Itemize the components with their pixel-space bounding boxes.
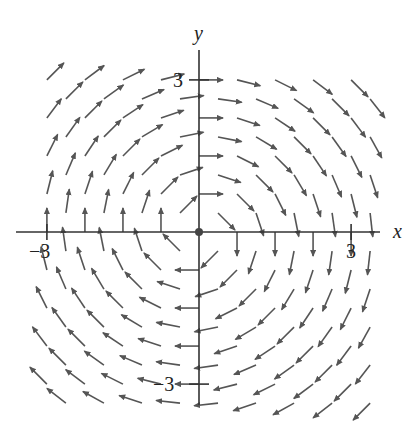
field-arrow bbox=[56, 267, 65, 289]
field-arrow bbox=[239, 289, 256, 306]
field-arrow bbox=[101, 373, 122, 384]
field-arrow bbox=[275, 156, 292, 173]
field-arrow bbox=[313, 194, 321, 217]
field-arrow bbox=[144, 253, 161, 270]
field-arrow bbox=[332, 137, 346, 157]
field-arrow bbox=[313, 403, 332, 418]
field-arrow bbox=[363, 289, 371, 312]
field-arrow bbox=[36, 287, 47, 308]
field-arrow bbox=[332, 99, 349, 116]
field-arrow bbox=[351, 156, 362, 177]
field-arrow bbox=[121, 315, 142, 327]
field-arrow bbox=[332, 213, 335, 237]
field-arrow bbox=[72, 288, 85, 308]
field-arrow bbox=[214, 346, 237, 354]
field-arrow bbox=[180, 96, 204, 99]
field-arrow bbox=[220, 270, 237, 287]
field-arrow bbox=[66, 189, 69, 213]
field-arrow bbox=[218, 213, 235, 230]
field-arrow bbox=[289, 251, 294, 275]
field-arrow bbox=[47, 171, 53, 194]
field-arrow bbox=[180, 196, 197, 213]
field-arrow bbox=[340, 308, 351, 329]
field-arrow bbox=[156, 400, 180, 403]
field-arrow bbox=[294, 175, 306, 196]
field-arrow bbox=[66, 82, 83, 99]
field-arrow bbox=[104, 154, 116, 175]
field-arrow bbox=[85, 171, 93, 194]
field-arrow bbox=[156, 322, 180, 327]
field-arrow bbox=[63, 227, 66, 251]
field-arrow bbox=[305, 270, 313, 293]
field-arrow bbox=[33, 327, 47, 346]
field-arrow bbox=[318, 327, 332, 347]
field-arrow bbox=[52, 308, 66, 328]
field-arrow bbox=[300, 308, 313, 328]
field-arrow bbox=[83, 391, 104, 403]
field-arrow bbox=[237, 80, 260, 86]
field-arrow bbox=[106, 291, 123, 308]
y-tick-label: 3 bbox=[173, 69, 183, 91]
field-arrow bbox=[313, 80, 332, 94]
field-arrow bbox=[258, 308, 275, 325]
field-arrow bbox=[123, 139, 140, 156]
field-arrow bbox=[329, 251, 332, 275]
field-arrow bbox=[85, 101, 102, 118]
field-arrow bbox=[49, 348, 66, 365]
field-arrow bbox=[30, 367, 47, 384]
field-arrow bbox=[337, 346, 351, 365]
field-arrow bbox=[256, 137, 277, 149]
field-arrow bbox=[275, 80, 296, 91]
field-arrow bbox=[296, 346, 313, 363]
field-arrow bbox=[104, 189, 109, 213]
field-arrow bbox=[255, 346, 275, 359]
field-arrow bbox=[142, 125, 163, 137]
axes: −333−3 x y bbox=[16, 22, 402, 405]
field-arrow bbox=[138, 338, 161, 346]
field-arrow bbox=[99, 227, 104, 251]
field-arrow bbox=[156, 362, 180, 365]
field-arrow bbox=[315, 365, 332, 382]
field-arrow bbox=[66, 370, 85, 384]
field-arrow bbox=[85, 136, 98, 156]
field-arrow bbox=[104, 85, 124, 99]
field-arrow bbox=[235, 327, 256, 339]
field-arrow bbox=[119, 396, 142, 404]
field-arrow bbox=[92, 268, 104, 289]
field-arrow bbox=[180, 132, 204, 137]
field-arrow bbox=[275, 194, 286, 215]
field-arrow bbox=[161, 177, 178, 194]
field-arrow bbox=[313, 118, 330, 135]
field-arrow bbox=[47, 388, 66, 403]
y-tick-label: −3 bbox=[153, 373, 174, 395]
field-arrow bbox=[367, 251, 370, 275]
field-arrow bbox=[273, 403, 294, 415]
y-axis-label: y bbox=[192, 22, 203, 45]
field-arrow bbox=[256, 99, 278, 108]
field-arrow bbox=[370, 175, 378, 198]
field-arrow bbox=[218, 137, 242, 142]
vector-arrows bbox=[30, 63, 385, 420]
field-arrow bbox=[123, 105, 143, 118]
field-arrow bbox=[294, 137, 311, 154]
field-arrow bbox=[254, 384, 275, 395]
field-arrow bbox=[84, 351, 104, 365]
x-tick-label: −3 bbox=[29, 240, 50, 262]
field-arrow bbox=[161, 110, 184, 118]
field-arrow bbox=[294, 213, 299, 237]
field-arrow bbox=[87, 310, 104, 327]
field-arrow bbox=[214, 384, 237, 390]
field-arrow bbox=[237, 118, 260, 126]
field-arrow bbox=[125, 272, 142, 289]
x-tick-label: 3 bbox=[346, 240, 356, 262]
field-arrow bbox=[237, 156, 258, 167]
field-arrow bbox=[68, 329, 85, 346]
field-arrow bbox=[142, 89, 164, 98]
field-arrow bbox=[345, 270, 351, 293]
field-arrow bbox=[323, 289, 332, 311]
field-arrow bbox=[294, 384, 313, 398]
field-arrow bbox=[351, 118, 365, 137]
field-arrow bbox=[140, 297, 161, 308]
field-arrow bbox=[370, 213, 373, 237]
field-arrow bbox=[234, 365, 256, 374]
